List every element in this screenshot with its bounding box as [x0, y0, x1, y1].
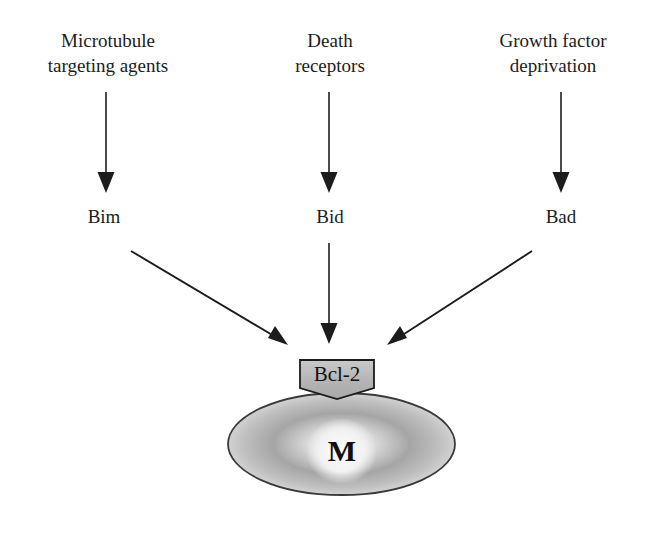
arrow-bid-to-bcl2 — [321, 243, 338, 344]
bcl2-label: Bcl-2 — [300, 359, 374, 389]
arrow-death-receptors-to-bid — [321, 92, 338, 193]
mitochondrion-label: M — [313, 424, 371, 478]
arrow-bad-to-bcl2 — [387, 251, 532, 345]
pathway-diagram: Microtubule targeting agents Death recep… — [0, 0, 647, 533]
arrow-bim-to-bcl2 — [131, 251, 288, 345]
arrow-microtubule-to-bim — [98, 92, 115, 193]
arrow-growth-factor-to-bad — [553, 92, 570, 193]
